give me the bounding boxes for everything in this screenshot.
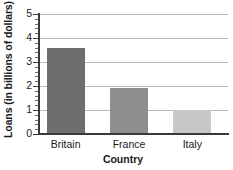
bar <box>173 110 211 134</box>
y-axis-line <box>38 13 40 135</box>
y-axis-tick-label: 5 <box>2 8 32 19</box>
x-axis-tick-labels: BritainFranceItaly <box>38 137 228 152</box>
y-axis-tick-label: 2 <box>2 80 32 91</box>
bar <box>47 48 85 134</box>
bar <box>110 88 148 134</box>
y-axis-tick-label: 4 <box>2 32 32 43</box>
x-axis-tick-label: Italy <box>152 137 232 151</box>
y-axis-tick-label: 1 <box>2 104 32 115</box>
x-axis-title: Country <box>38 152 208 166</box>
y-axis-tick-label: 3 <box>2 56 32 67</box>
x-axis-line <box>38 133 229 135</box>
bar-chart: Loans (in billions of dollars) 012345 Br… <box>0 0 233 170</box>
bars-layer <box>38 14 228 134</box>
